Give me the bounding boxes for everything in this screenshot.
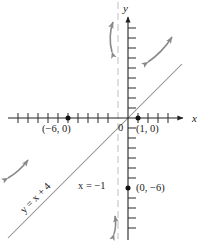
- line-y-equals-x-plus-4: [8, 64, 182, 238]
- label-point-minus6-0: (−6, 0): [42, 124, 71, 135]
- x-axis-label: x: [192, 113, 197, 124]
- point-minus6-0: [66, 116, 71, 121]
- arrow-top-left: [110, 22, 113, 52]
- y-axis-label: y: [123, 3, 128, 14]
- arrow-top-right: [148, 37, 172, 62]
- arrow-bottom-center: [114, 216, 116, 234]
- label-x-equals-minus-1: x = −1: [78, 181, 106, 192]
- label-point-0-minus6: (0, −6): [136, 183, 165, 194]
- graph-figure: x y 0 (−6, 0) (1, 0) (0, −6) x = −1 y = …: [0, 0, 204, 241]
- point-1-0: [136, 116, 141, 121]
- y-axis: [128, 17, 136, 240]
- y-axis-ticks: [128, 28, 136, 228]
- arrow-bottom-left: [8, 160, 28, 178]
- x-axis: [8, 113, 183, 123]
- label-point-1-0: (1, 0): [136, 124, 159, 135]
- point-0-minus6: [126, 186, 131, 191]
- origin-label: 0: [118, 123, 123, 134]
